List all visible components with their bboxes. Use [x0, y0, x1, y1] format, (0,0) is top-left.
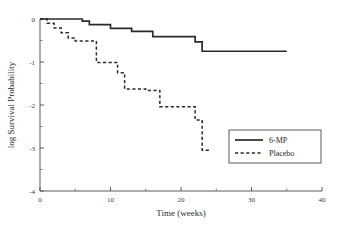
chart-canvas: 010203040 0-1-2-3-4 Time (weeks) log Sur… — [0, 0, 338, 235]
y-axis-title: log Survival Probability — [6, 61, 16, 148]
y-tick-label: -1 — [29, 59, 35, 67]
x-tick-label: 30 — [248, 196, 256, 204]
chart-background — [0, 0, 338, 235]
x-axis-title: Time (weeks) — [156, 208, 205, 218]
x-tick-label: 10 — [107, 196, 115, 204]
x-tick-label: 0 — [38, 196, 42, 204]
y-tick-label: 0 — [32, 16, 36, 24]
x-tick-label: 40 — [319, 196, 327, 204]
x-tick-label: 20 — [178, 196, 186, 204]
y-tick-label: -2 — [29, 102, 35, 110]
legend-label-6-mp: 6-MP — [269, 136, 288, 145]
legend-box — [229, 130, 321, 163]
y-tick-label: -3 — [29, 145, 35, 153]
legend-label-placebo: Placebo — [269, 149, 294, 158]
y-tick-label: -4 — [29, 188, 35, 196]
chart-legend: 6-MPPlacebo — [229, 130, 321, 163]
survival-chart-figure: 010203040 0-1-2-3-4 Time (weeks) log Sur… — [0, 0, 338, 235]
